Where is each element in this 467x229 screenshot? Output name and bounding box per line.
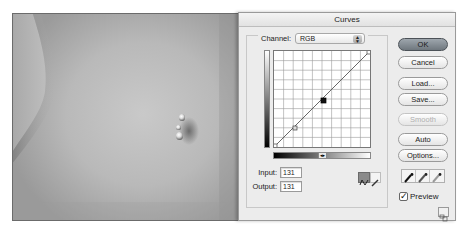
torso-silhouette [13,14,239,220]
save-button[interactable]: Save... [398,93,448,106]
preview-label: Preview [410,192,438,201]
input-row: Input: 131 [243,167,302,178]
auto-button[interactable]: Auto [398,133,448,146]
output-gradient-bar [264,50,270,148]
eyedropper-black-icon [402,172,416,184]
channel-label: Channel: [261,34,291,43]
eyedropper-white-icon [430,172,444,184]
smooth-button[interactable]: Smooth [398,113,448,126]
channel-select[interactable]: RGB ▲▼ [295,33,365,44]
output-field[interactable]: 131 [280,181,302,192]
piercing-top-bead [179,114,185,121]
channel-value: RGB [300,35,315,42]
gray-eyedropper-button[interactable] [416,170,430,182]
pencil-tool-button[interactable] [370,172,381,183]
white-eyedropper-button[interactable] [430,170,444,182]
preview-checkbox-row[interactable]: ✓ Preview [399,192,438,201]
updown-arrows-icon: ▲▼ [353,35,362,43]
curve-wave-icon [359,178,369,187]
grid-expand-icon [439,214,448,222]
load-button[interactable]: Load... [398,77,448,90]
curve-grid [274,51,370,147]
options-button[interactable]: Options... [398,149,448,162]
input-field[interactable]: 131 [280,167,302,178]
input-gradient-bar: ◂▸ [273,152,371,159]
black-eyedropper-button[interactable] [402,170,416,182]
curve-point-black [274,144,277,147]
eyedropper-gray-icon [416,172,430,184]
channel-row: Channel: RGB ▲▼ [258,32,368,44]
output-label: Output: [243,182,277,191]
curve-graph[interactable] [273,50,371,148]
document-image [12,13,240,221]
preview-checkbox[interactable]: ✓ [399,192,408,201]
cancel-button[interactable]: Cancel [398,56,448,69]
input-label: Input: [243,168,277,177]
curve-tool-button[interactable] [358,172,370,183]
piercing-middle-bead [176,125,181,130]
curve-point-shadow [293,126,297,130]
output-row: Output: 131 [243,181,302,192]
gradient-direction-toggle[interactable]: ◂▸ [318,152,327,159]
piercing-bottom-bead [176,132,183,140]
ok-button[interactable]: OK [398,38,448,51]
expand-dialog-icon[interactable] [438,207,449,217]
eyedropper-group [401,169,445,183]
curve-point-selected [321,98,326,103]
curve-point-white [367,51,370,54]
dialog-title: Curves [239,13,455,27]
pencil-icon [371,178,380,187]
